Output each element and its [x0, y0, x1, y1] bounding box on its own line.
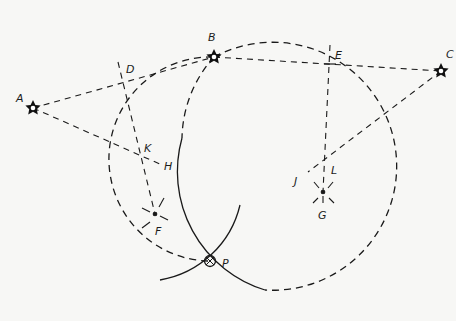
label-P: P [222, 257, 229, 270]
f-center-mark [142, 198, 168, 228]
line-AH [33, 108, 162, 165]
line-CJ [308, 71, 441, 172]
label-K: K [144, 142, 152, 155]
label-C: C [446, 48, 454, 61]
star-icon-B [206, 49, 221, 64]
g-center-mark [313, 182, 334, 203]
label-L: L [331, 164, 337, 177]
label-D: D [126, 63, 134, 76]
diagram-canvas: A B C D E F G H J K L P [0, 0, 456, 321]
construction-svg: A B C D E F G H J K L P [0, 0, 456, 321]
bisector-EG [323, 45, 330, 192]
left-circle-inner-arc [182, 57, 214, 138]
star-icon-A [25, 100, 40, 115]
label-J: J [292, 175, 297, 188]
bisector-DF [118, 62, 155, 214]
label-B: B [208, 31, 216, 44]
label-F: F [155, 225, 162, 238]
star-icon-C [433, 63, 448, 78]
right-circle-dashed [214, 42, 397, 290]
label-G: G [318, 209, 327, 222]
label-H: H [164, 160, 172, 173]
line-AB [33, 57, 214, 108]
label-A: A [15, 92, 24, 105]
label-E: E [335, 49, 342, 62]
